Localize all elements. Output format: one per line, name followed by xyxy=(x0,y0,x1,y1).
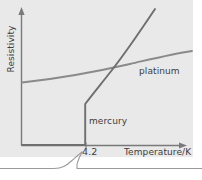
callout-hook-left xyxy=(0,152,82,169)
y-axis-label: Resistivity xyxy=(6,19,16,79)
resistivity-temperature-figure: Resistivity Temperature/K platinum mercu… xyxy=(0,0,202,180)
mercury-series-label: mercury xyxy=(89,116,127,126)
y-axis-arrowhead xyxy=(18,7,24,15)
x-axis-tick-label: 4.2 xyxy=(82,146,97,157)
x-axis-label: Temperature/K xyxy=(124,147,191,157)
platinum-series-label: platinum xyxy=(139,66,180,76)
